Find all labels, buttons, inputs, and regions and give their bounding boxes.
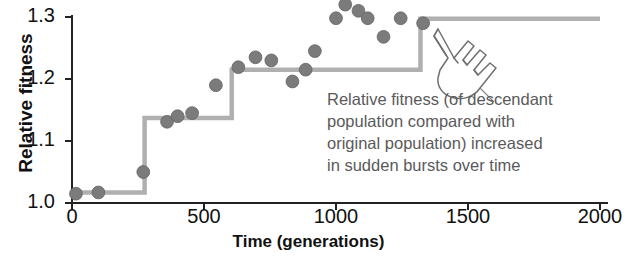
x-tick-label-1500: 1500: [433, 205, 503, 228]
data-point: [265, 54, 278, 67]
y-tick-label-1-3: 1.3: [3, 4, 55, 27]
data-point: [299, 63, 312, 76]
data-point: [377, 30, 390, 43]
x-tick-label-500: 500: [169, 205, 239, 228]
x-tick-label-0: 0: [37, 205, 107, 228]
chart-annotation: Relative fitness (of descendant populati…: [327, 88, 617, 176]
data-point: [249, 51, 262, 64]
x-tick-label-2000: 2000: [565, 205, 626, 228]
y-tick-label-1-1: 1.1: [3, 128, 55, 151]
data-point: [394, 12, 407, 25]
data-point: [417, 17, 430, 30]
data-point: [339, 0, 352, 11]
x-axis-title: Time (generations): [0, 232, 617, 252]
data-point: [92, 186, 105, 199]
data-point: [171, 110, 184, 123]
data-point: [209, 79, 222, 92]
data-point: [361, 12, 374, 25]
data-point: [232, 61, 245, 74]
y-axis-title: Relative fitness: [15, 28, 37, 178]
data-point: [70, 187, 83, 200]
data-point: [137, 166, 150, 179]
data-point: [286, 75, 299, 88]
y-tick-label-1-2: 1.2: [3, 66, 55, 89]
x-tick-label-1000: 1000: [301, 205, 371, 228]
data-point: [186, 107, 199, 120]
data-point: [308, 45, 321, 58]
data-point: [330, 12, 343, 25]
